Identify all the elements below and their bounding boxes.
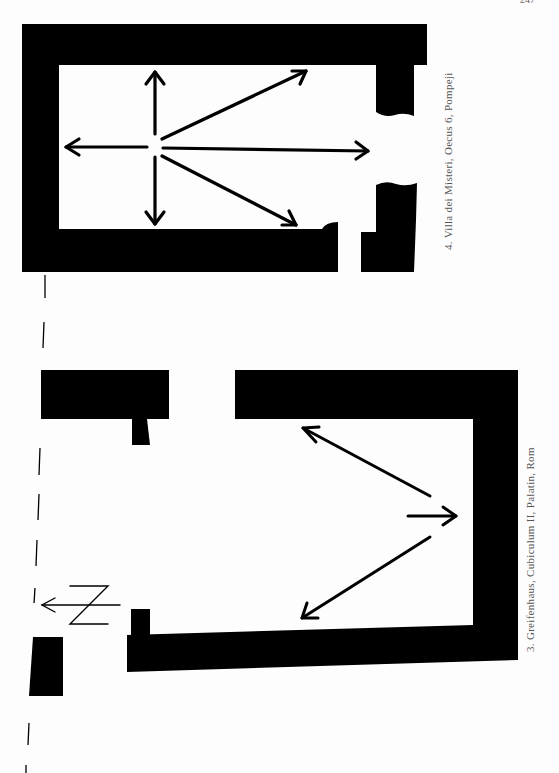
- figure-3-caption: 3. Greifenhaus, Cubiculum II, Palatin, R…: [524, 447, 536, 652]
- document-page: 247: [0, 0, 559, 773]
- figure-4-sightline-arrows: [66, 71, 368, 225]
- dashed-axis-line: [26, 275, 45, 773]
- figure-4-caption: 4. Villa dei Misteri, Oecus 6, Pompeji: [442, 72, 454, 250]
- figure-4-floor-plan: [0, 0, 559, 773]
- figure-3-sightline-arrows: [302, 427, 456, 618]
- north-arrow-icon: [42, 586, 120, 624]
- figure-3-walls: [29, 370, 518, 696]
